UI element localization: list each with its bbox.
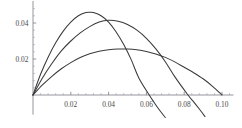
- curve-curve-3: [33, 49, 222, 95]
- x-tick-label: 0.10: [216, 100, 229, 109]
- ticks-group: [33, 9, 230, 95]
- y-tick-label: 0.02: [16, 55, 29, 64]
- x-tick-label: 0.06: [140, 100, 153, 109]
- plot-figure: 0.020.040.060.080.100.020.04: [0, 0, 242, 128]
- y-tick-label: 0.04: [16, 19, 29, 28]
- x-tick-label: 0.04: [102, 100, 115, 109]
- x-tick-label: 0.02: [64, 100, 77, 109]
- axes-group: [32, 1, 233, 115]
- x-tick-label: 0.08: [178, 100, 191, 109]
- curves-group: [33, 12, 222, 117]
- plot-canvas: 0.020.040.060.080.100.020.04: [0, 0, 242, 128]
